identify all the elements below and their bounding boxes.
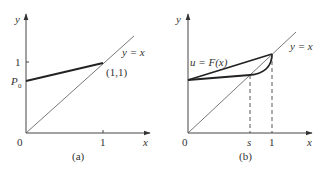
panel-a: y x 0 1 1 P 0 y = x (1,1) (a) xyxy=(10,13,150,163)
panel-a-y-axis-label: y xyxy=(14,13,20,25)
p0-subscript: 0 xyxy=(18,82,22,90)
panel-b-y-axis-label: y xyxy=(175,13,181,25)
panel-b-s-tick-label: s xyxy=(247,136,251,148)
p0-letter: P xyxy=(10,75,18,87)
panel-b-diagonal-label: y = x xyxy=(289,40,313,52)
panel-a-origin-label: 0 xyxy=(17,136,23,148)
panel-a-p0-label: P 0 xyxy=(10,75,22,90)
panel-a-caption: (a) xyxy=(72,150,85,163)
panel-a-x-axis-label: x xyxy=(142,136,148,148)
panel-a-point-label: (1,1) xyxy=(106,66,127,79)
figure-canvas: y x 0 1 1 P 0 y = x (1,1) (a) y x 0 s 1 … xyxy=(0,0,327,174)
panel-b-x-axis-label: x xyxy=(306,136,312,148)
panel-b-x-tick-label: 1 xyxy=(269,136,275,148)
panel-b-caption: (b) xyxy=(239,150,252,163)
panel-b-origin-label: 0 xyxy=(182,136,188,148)
panel-b: y x 0 s 1 u = F(x) y = x (b) xyxy=(175,13,313,163)
panel-a-y-tick-label: 1 xyxy=(15,56,21,68)
panel-a-p0-line xyxy=(26,63,103,81)
panel-b-curve-label: u = F(x) xyxy=(190,56,228,69)
panel-b-diagonal-line xyxy=(188,32,296,133)
panel-a-diagonal-line xyxy=(26,36,134,133)
panel-a-x-tick-label: 1 xyxy=(100,136,106,148)
panel-a-diagonal-label: y = x xyxy=(121,46,145,58)
